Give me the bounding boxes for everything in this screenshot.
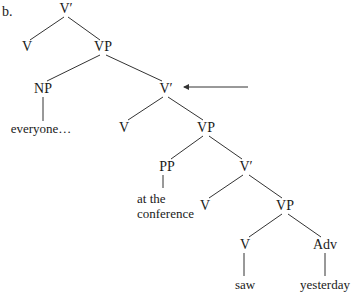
leaf-line-1: at the [137, 191, 194, 206]
node-pp: PP [159, 160, 175, 174]
leaf-at-the-conference: at the conference [137, 191, 194, 221]
leaf-line-2: conference [137, 206, 194, 221]
node-vbar-top: V′ [59, 2, 72, 16]
node-np: NP [34, 82, 52, 96]
node-adv: Adv [313, 238, 337, 252]
tree-edges [0, 0, 360, 305]
node-v-4: V [240, 238, 250, 252]
node-vp-3: VP [276, 199, 294, 213]
leaf-saw: saw [235, 278, 255, 292]
syntax-tree: b. V′ V VP NP everyone… V′ V VP PP at th… [0, 0, 360, 305]
node-vp-1: VP [94, 40, 112, 54]
example-label: b. [2, 5, 13, 19]
node-vp-2: VP [197, 121, 215, 135]
leaf-yesterday: yesterday [300, 278, 350, 292]
node-v-2: V [119, 121, 129, 135]
node-vbar-2: V′ [159, 82, 172, 96]
node-v-3: V [200, 199, 210, 213]
leaf-everyone: everyone… [11, 122, 72, 136]
node-v-1: V [22, 40, 32, 54]
node-vbar-3: V′ [239, 160, 252, 174]
